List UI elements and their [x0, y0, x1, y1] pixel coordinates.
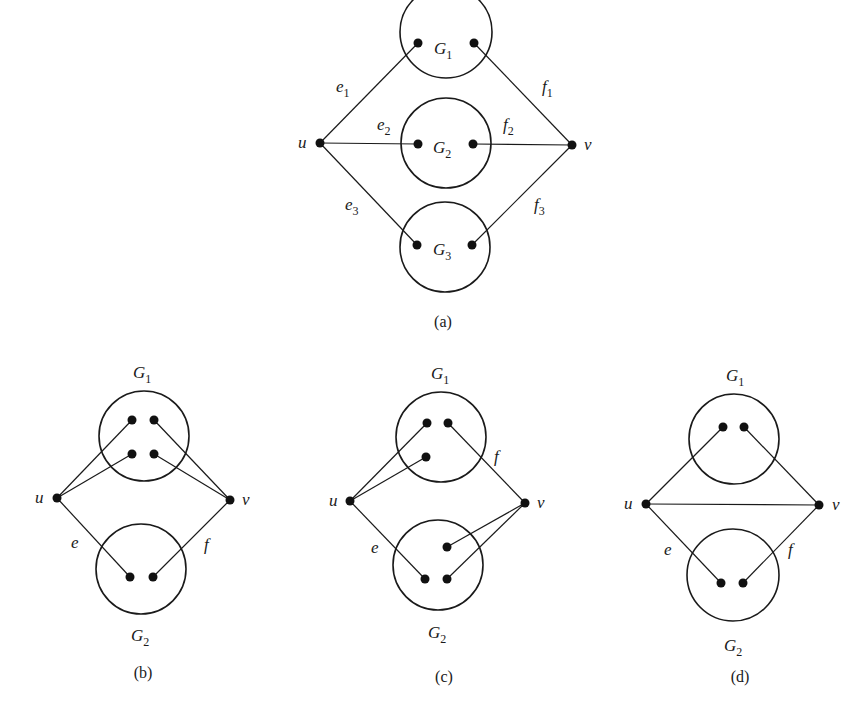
vertex [414, 39, 423, 48]
vertex [149, 573, 158, 582]
figure-c-caption: (c) [435, 668, 453, 686]
vertex-v-label: v [584, 135, 592, 154]
vertex-u [53, 494, 62, 503]
edge-uv [646, 504, 819, 505]
edge-e-label: e [371, 538, 379, 557]
subgraph-g1-label: G1 [133, 363, 151, 386]
vertex-v [815, 501, 824, 510]
subgraph-g2-label: G2 [428, 623, 446, 646]
vertex-u [316, 139, 325, 148]
edge [57, 420, 132, 498]
vertex [128, 450, 137, 459]
subgraph-g2-label: G2 [131, 626, 149, 649]
vertex-v-label: v [832, 495, 840, 514]
vertex [739, 579, 748, 588]
edge [646, 427, 723, 504]
edge-f-label: f [204, 535, 211, 554]
vertex-v [521, 499, 530, 508]
edge [154, 420, 230, 500]
edge [744, 427, 819, 505]
figure-b: u v G1 G2 e f (b) [35, 363, 250, 682]
vertex [413, 241, 422, 250]
vertex-u-label: u [329, 491, 338, 510]
edge-f [743, 505, 819, 583]
figure-b-caption: (b) [134, 664, 153, 682]
vertex [740, 423, 749, 432]
vertex-v [568, 141, 577, 150]
subgraph-g1-label: G1 [434, 39, 452, 62]
edge-e [646, 504, 721, 583]
edge-f2-label: f2 [503, 115, 514, 138]
edge-e2-label: e2 [377, 115, 391, 138]
vertex [470, 39, 479, 48]
edge-e-label: e [664, 540, 672, 559]
vertex [717, 579, 726, 588]
edge-e3-label: e3 [345, 195, 359, 218]
subgraph-g3-label: G3 [433, 240, 451, 263]
vertex-u-label: u [35, 488, 44, 507]
edge-e [350, 501, 425, 579]
edge-f1-label: f1 [542, 77, 553, 100]
vertex [423, 419, 432, 428]
subgraph-g1-label: G1 [726, 366, 744, 389]
vertex [719, 423, 728, 432]
vertex [421, 575, 430, 584]
vertex [468, 241, 477, 250]
vertex [150, 416, 159, 425]
vertex [414, 140, 423, 149]
vertex-v-label: v [242, 490, 250, 509]
subgraph-g2-circle [687, 529, 779, 621]
edge-e [57, 498, 130, 577]
edge-e-label: e [71, 533, 79, 552]
vertex [126, 573, 135, 582]
subgraph-g2-circle [393, 520, 483, 610]
vertex [128, 416, 137, 425]
vertex [443, 575, 452, 584]
vertex [443, 543, 452, 552]
figure-c: u v G1 G2 e f (c) [329, 364, 545, 686]
vertex-u-label: u [624, 494, 633, 513]
subgraph-g2-circle [96, 524, 186, 614]
edge-f2 [473, 144, 572, 145]
vertex-v [226, 496, 235, 505]
subgraph-g1-circle [396, 392, 486, 482]
edge-f-label: f [494, 447, 501, 466]
vertex-u-label: u [298, 133, 307, 152]
edge [154, 454, 230, 500]
edge-e1-label: e1 [336, 77, 350, 100]
subgraph-g1-circle [689, 394, 779, 484]
edge-e2 [320, 143, 418, 144]
edge-f-label: f [788, 540, 795, 559]
figure-a-caption: (a) [434, 313, 452, 331]
figure-d-caption: (d) [731, 668, 750, 686]
diagram-canvas: u v G1 G2 G3 e1 e2 e3 f1 f2 f3 (a) u v G… [0, 0, 862, 717]
edge [350, 423, 427, 501]
vertex-v-label: v [537, 493, 545, 512]
edge-e3 [320, 143, 417, 245]
edge [57, 454, 132, 498]
figure-d: u v G1 G2 e f (d) [624, 366, 840, 686]
edge-f [153, 500, 230, 577]
vertex-u [346, 497, 355, 506]
vertex [150, 450, 159, 459]
vertex [444, 419, 453, 428]
vertex [422, 453, 431, 462]
vertex-u [642, 500, 651, 509]
edge [350, 457, 426, 501]
subgraph-g2-label: G2 [724, 636, 742, 659]
figure-a: u v G1 G2 G3 e1 e2 e3 f1 f2 f3 (a) [298, 0, 592, 331]
subgraph-g2-label: G2 [433, 138, 451, 161]
edge-f3-label: f3 [534, 195, 545, 218]
subgraph-g1-label: G1 [431, 364, 449, 387]
vertex [469, 140, 478, 149]
